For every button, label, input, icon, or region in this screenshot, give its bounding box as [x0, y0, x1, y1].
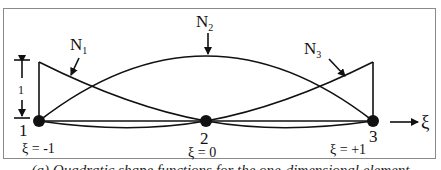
node-2-dot	[200, 115, 212, 127]
node-1-xi: ξ = -1	[22, 142, 55, 156]
node-3-dot	[367, 115, 379, 127]
n1-leader	[71, 58, 79, 75]
xi-axis-label: ξ	[421, 112, 429, 131]
label-n3: N3	[304, 40, 321, 60]
n2-curve	[39, 56, 373, 121]
node-1-label: 1	[19, 122, 28, 139]
node-2-xi: ξ = 0	[188, 146, 216, 160]
n3-leader	[329, 59, 345, 76]
label-n1: N1	[70, 36, 87, 56]
figure-caption: (a) Quadratic shape functions for the on…	[0, 162, 441, 170]
label-n2: N2	[196, 13, 213, 33]
unit-height-label: 1	[18, 84, 24, 96]
node-3-xi: ξ = +1	[330, 143, 366, 157]
node-3-label: 3	[369, 128, 378, 145]
node-1-dot	[33, 115, 45, 127]
